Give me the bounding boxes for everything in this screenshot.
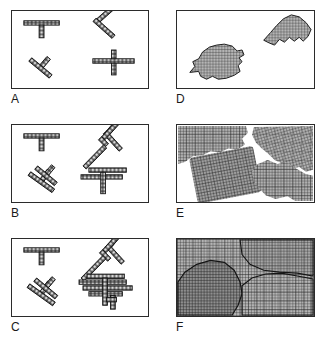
panel-c-canvas [12,239,148,316]
panel-c-frame [11,238,149,317]
particle-l-2 [93,11,122,38]
panel-c: C [11,238,149,317]
particle-t-1 [24,21,59,38]
panel-d-frame [176,10,315,89]
panel-b-frame [11,124,149,203]
particle-cluster-7 [79,274,132,309]
panel-b: B [11,124,149,203]
figure-root: A D [0,0,328,340]
panel-a-label: A [11,93,19,105]
panel-f-label: F [176,321,183,333]
cluster-d-1 [264,15,311,45]
panel-d: D [176,10,315,89]
particle-l-4 [83,145,107,169]
panel-d-label: D [176,93,185,105]
panel-f: F [176,238,315,317]
panel-e-label: E [176,207,184,219]
cluster-d-2 [190,44,244,79]
particle-t-3 [29,50,59,79]
panel-a-frame [11,10,149,89]
particle-t-4 [93,50,134,75]
particle-t-1 [24,134,59,151]
panel-b-label: B [11,207,19,219]
panel-f-frame [176,238,315,317]
particle-t-1 [24,248,59,265]
particle-t-7 [81,168,126,194]
panel-a: A [11,10,149,89]
panel-f-canvas [177,239,314,316]
panel-c-label: C [11,321,20,333]
panel-e: E [176,124,315,203]
panel-e-frame [176,124,315,203]
panel-e-canvas [177,125,314,202]
panel-b-canvas [12,125,148,202]
panel-d-canvas [177,11,314,88]
panel-a-canvas [12,11,148,88]
